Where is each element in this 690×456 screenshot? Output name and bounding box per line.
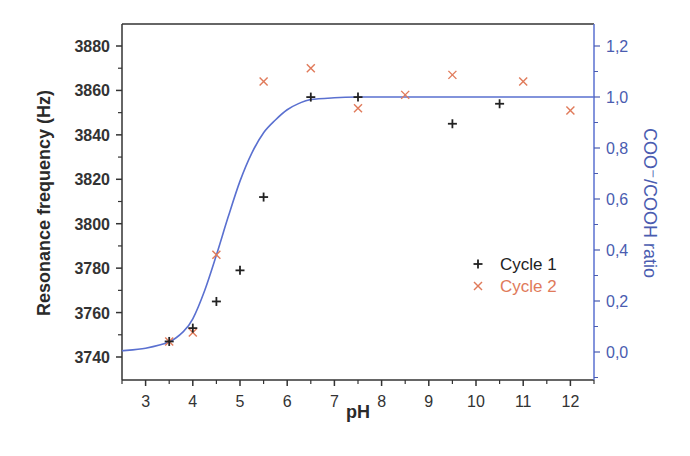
x-tick-label: 9 [424, 393, 433, 410]
y-tick-label: 3880 [74, 38, 110, 55]
chart: 37403760378038003820384038603880 0,00,20… [0, 0, 690, 456]
y2-tick-label: 1,2 [606, 38, 628, 55]
cycle2-marker [519, 78, 527, 86]
cycle1-marker [236, 266, 245, 275]
ratio-curve-path [122, 97, 594, 351]
x-tick-label: 5 [236, 393, 245, 410]
y2-tick-label: 0,8 [606, 140, 628, 157]
y-tick-label: 3760 [74, 305, 110, 322]
cycle2-marker [566, 106, 574, 114]
cycle2-marker [260, 78, 268, 86]
x-tick-label: 4 [188, 393, 197, 410]
data-points [165, 64, 575, 346]
y2-tick-label: 0,0 [606, 344, 628, 361]
y-tick-label: 3740 [74, 349, 110, 366]
cycle1-marker [474, 260, 483, 269]
ratio-curve [122, 97, 594, 351]
y2-axis-title: COO⁻/COOH ratio [640, 128, 660, 278]
y2-tick-label: 0,4 [606, 242, 628, 259]
cycle1-marker [495, 99, 504, 108]
y-tick-label: 3840 [74, 127, 110, 144]
y-tick-label: 3820 [74, 171, 110, 188]
cycle2-marker [307, 64, 315, 72]
legend: Cycle 1Cycle 2 [474, 255, 557, 296]
x-tick-label: 11 [515, 393, 532, 410]
y-tick-label: 3860 [74, 82, 110, 99]
cycle1-marker [448, 119, 457, 128]
x-tick-label: 10 [467, 393, 485, 410]
y-axis-title: Resonance frequency (Hz) [34, 90, 54, 316]
x-tick-label: 7 [330, 393, 339, 410]
cycle2-marker [448, 71, 456, 79]
right-y-axis: 0,00,20,40,60,81,01,2 [594, 38, 628, 378]
x-axis-title: pH [346, 402, 370, 422]
left-y-axis: 37403760378038003820384038603880 [74, 38, 122, 366]
x-tick-label: 6 [283, 393, 292, 410]
cycle1-marker [212, 297, 221, 306]
x-tick-label: 8 [377, 393, 386, 410]
y-tick-label: 3800 [74, 216, 110, 233]
y2-tick-label: 0,6 [606, 191, 628, 208]
cycle2-marker [474, 282, 482, 290]
legend-label: Cycle 2 [500, 277, 557, 296]
cycle1-marker [259, 193, 268, 202]
y2-tick-label: 0,2 [606, 293, 628, 310]
x-tick-label: 12 [562, 393, 580, 410]
cycle2-marker [354, 104, 362, 112]
y2-tick-label: 1,0 [606, 89, 628, 106]
legend-label: Cycle 1 [500, 255, 557, 274]
x-tick-label: 3 [141, 393, 150, 410]
cycle1-marker [354, 93, 363, 102]
chart-svg: 37403760378038003820384038603880 0,00,20… [0, 0, 690, 456]
y-tick-label: 3780 [74, 260, 110, 277]
